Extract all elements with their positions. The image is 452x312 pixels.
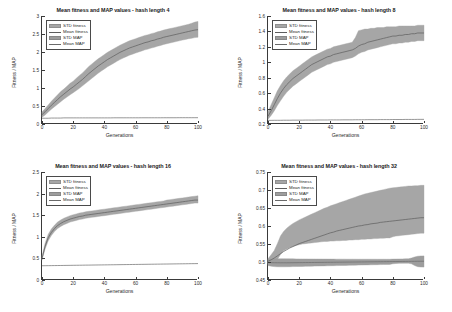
subplot-hash-length-16: Mean fitness and MAP values - hash lengt… xyxy=(0,156,226,312)
x-tick-mark xyxy=(393,121,394,124)
legend-item[interactable]: Mean MAP xyxy=(275,197,314,203)
plot-area: 00.511.522.53020406080100Fitness / MAPGe… xyxy=(41,16,197,124)
y-tick-mark xyxy=(42,258,45,259)
legend-label: STD MAP xyxy=(289,35,309,41)
x-tick-mark xyxy=(424,121,425,124)
x-tick-label: 100 xyxy=(420,281,428,286)
chart-legend[interactable]: STD fitnessMean fitnessSTD MAPMean MAP xyxy=(272,20,317,50)
y-axis-label: Fitness / MAP xyxy=(12,32,17,112)
y-tick-label: 0.2 xyxy=(258,122,265,127)
y-tick-mark xyxy=(42,215,45,216)
y-tick-label: 0.45 xyxy=(256,278,265,283)
y-axis-label: Fitness / MAP xyxy=(238,32,243,112)
y-tick-mark xyxy=(268,208,271,209)
x-tick-label: 60 xyxy=(133,125,138,130)
x-tick-label: 40 xyxy=(102,125,107,130)
legend-label: STD MAP xyxy=(289,191,309,197)
y-tick-label: 0.65 xyxy=(256,206,265,211)
x-tick-mark xyxy=(104,277,105,280)
legend-item[interactable]: Mean MAP xyxy=(49,197,88,203)
legend-swatch-patch-icon xyxy=(49,24,61,28)
y-tick-label: 0.4 xyxy=(258,106,265,111)
x-axis-label: Generations xyxy=(42,288,197,294)
x-tick-mark xyxy=(362,121,363,124)
y-tick-mark xyxy=(268,244,271,245)
legend-label: STD fitness xyxy=(289,23,312,29)
y-tick-mark xyxy=(268,226,271,227)
figure-canvas: Mean fitness and MAP values - hash lengt… xyxy=(0,0,452,312)
x-tick-mark xyxy=(167,121,168,124)
chart-legend[interactable]: STD fitnessMean fitnessSTD MAPMean MAP xyxy=(46,20,91,50)
x-tick-label: 80 xyxy=(390,281,395,286)
x-tick-mark xyxy=(268,121,269,124)
y-tick-mark xyxy=(268,47,271,48)
legend-swatch-line-map-icon xyxy=(275,198,287,202)
x-tick-mark xyxy=(198,121,199,124)
legend-label: STD fitness xyxy=(63,23,86,29)
y-tick-label: 1.2 xyxy=(258,44,265,49)
y-tick-mark xyxy=(268,93,271,94)
plot-area: 00.511.522.5020406080100Fitness / MAPGen… xyxy=(41,172,197,280)
y-tick-label: 1.4 xyxy=(258,29,265,34)
y-tick-label: 0.6 xyxy=(258,224,265,229)
y-tick-label: 0 xyxy=(36,122,39,127)
chart-title: Mean fitness and MAP values - hash lengt… xyxy=(226,163,452,169)
legend-swatch-line-map-icon xyxy=(49,42,61,46)
y-tick-label: 0.8 xyxy=(258,75,265,80)
legend-item[interactable]: Mean MAP xyxy=(275,41,314,47)
x-tick-label: 20 xyxy=(71,281,76,286)
x-tick-label: 40 xyxy=(328,281,333,286)
x-tick-label: 20 xyxy=(297,125,302,130)
x-tick-mark xyxy=(73,121,74,124)
x-axis-label: Generations xyxy=(268,288,423,294)
mean-map-line xyxy=(42,118,198,119)
y-tick-label: 0.5 xyxy=(258,260,265,265)
x-tick-mark xyxy=(330,121,331,124)
y-tick-label: 1.5 xyxy=(32,213,39,218)
y-tick-mark xyxy=(42,106,45,107)
x-tick-label: 60 xyxy=(359,125,364,130)
x-tick-mark xyxy=(393,277,394,280)
y-tick-mark xyxy=(268,172,271,173)
legend-item[interactable]: Mean MAP xyxy=(49,41,88,47)
y-tick-label: 0.6 xyxy=(258,91,265,96)
y-tick-mark xyxy=(42,52,45,53)
y-tick-mark xyxy=(42,16,45,17)
chart-legend[interactable]: STD fitnessMean fitnessSTD MAPMean MAP xyxy=(272,176,317,206)
x-tick-label: 60 xyxy=(133,281,138,286)
legend-swatch-line-map-icon xyxy=(49,198,61,202)
x-tick-label: 0 xyxy=(267,281,270,286)
y-axis-label: Fitness / MAP xyxy=(238,188,243,268)
chart-title: Mean fitness and MAP values - hash lengt… xyxy=(0,7,226,13)
legend-label: Mean MAP xyxy=(63,197,85,203)
y-tick-label: 3 xyxy=(36,14,39,19)
x-tick-label: 20 xyxy=(71,125,76,130)
legend-swatch-patch-icon xyxy=(275,180,287,184)
y-tick-label: 2.5 xyxy=(32,170,39,175)
legend-swatch-line-icon xyxy=(275,186,287,190)
y-tick-label: 1.5 xyxy=(32,68,39,73)
chart-title: Mean fitness and MAP values - hash lengt… xyxy=(0,163,226,169)
y-tick-label: 1.6 xyxy=(258,14,265,19)
y-tick-mark xyxy=(268,62,271,63)
x-tick-label: 80 xyxy=(390,125,395,130)
subplot-hash-length-4: Mean fitness and MAP values - hash lengt… xyxy=(0,0,226,156)
y-axis-label: Fitness / MAP xyxy=(12,188,17,268)
x-tick-label: 60 xyxy=(359,281,364,286)
y-tick-label: 0.55 xyxy=(256,242,265,247)
y-tick-mark xyxy=(268,109,271,110)
x-tick-mark xyxy=(362,277,363,280)
y-tick-label: 1 xyxy=(36,234,39,239)
legend-label: Mean fitness xyxy=(289,185,314,191)
x-tick-mark xyxy=(104,121,105,124)
mean-map-line xyxy=(268,119,424,120)
subplot-hash-length-8: Mean fitness and MAP values - hash lengt… xyxy=(226,0,452,156)
y-tick-label: 0.5 xyxy=(32,256,39,261)
legend-label: Mean MAP xyxy=(289,197,311,203)
legend-label: Mean fitness xyxy=(63,185,88,191)
legend-swatch-line-icon xyxy=(275,30,287,34)
y-tick-label: 2 xyxy=(36,191,39,196)
chart-legend[interactable]: STD fitnessMean fitnessSTD MAPMean MAP xyxy=(46,176,91,206)
y-tick-mark xyxy=(42,194,45,195)
x-tick-mark xyxy=(299,121,300,124)
